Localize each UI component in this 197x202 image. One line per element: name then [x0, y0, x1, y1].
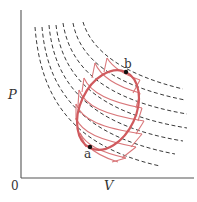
point-b-label: b [124, 57, 132, 71]
pv-diagram: a b P V 0 [0, 0, 197, 202]
origin-label: 0 [11, 179, 19, 193]
y-axis-label: P [7, 87, 17, 102]
isotherms [35, 22, 187, 166]
cycle-ellipse [65, 60, 151, 160]
point-a-label: a [84, 147, 91, 161]
x-axis-label: V [104, 178, 115, 193]
isotherm-3 [49, 25, 183, 141]
